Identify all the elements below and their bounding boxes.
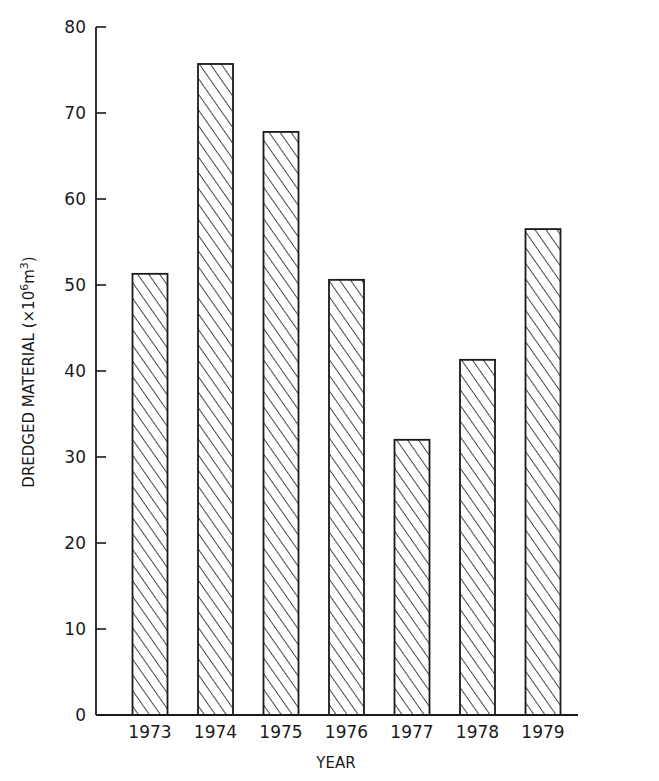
x-axis: 1973197419751976197719781979 bbox=[128, 722, 564, 742]
bar-1973 bbox=[133, 274, 168, 715]
y-tick-label: 40 bbox=[64, 361, 86, 381]
bar-1975 bbox=[264, 132, 299, 715]
bar-1976 bbox=[329, 280, 364, 715]
bar-1974 bbox=[198, 64, 233, 715]
bar-1978 bbox=[460, 360, 495, 715]
x-tick-label: 1974 bbox=[194, 722, 237, 742]
y-tick-label: 50 bbox=[64, 275, 86, 295]
y-tick-label: 0 bbox=[75, 705, 86, 725]
bar-1979 bbox=[526, 229, 561, 715]
y-tick-label: 80 bbox=[64, 17, 86, 37]
x-tick-label: 1976 bbox=[325, 722, 368, 742]
y-tick-label: 10 bbox=[64, 619, 86, 639]
y-axis: 01020304050607080 bbox=[64, 17, 106, 725]
bar-chart: 01020304050607080 1973197419751976197719… bbox=[0, 0, 659, 781]
x-tick-label: 1975 bbox=[259, 722, 302, 742]
x-tick-label: 1977 bbox=[390, 722, 433, 742]
y-tick-label: 20 bbox=[64, 533, 86, 553]
y-axis-title: DREDGED MATERIAL (×106m3) bbox=[18, 256, 38, 487]
y-tick-label: 30 bbox=[64, 447, 86, 467]
y-tick-label: 70 bbox=[64, 103, 86, 123]
x-axis-title: YEAR bbox=[315, 754, 355, 772]
x-tick-label: 1973 bbox=[128, 722, 171, 742]
x-tick-label: 1978 bbox=[456, 722, 499, 742]
y-tick-label: 60 bbox=[64, 189, 86, 209]
bars bbox=[133, 64, 561, 715]
x-tick-label: 1979 bbox=[521, 722, 564, 742]
bar-1977 bbox=[395, 440, 430, 715]
